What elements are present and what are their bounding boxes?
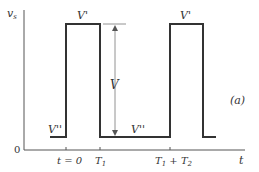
arrow-down-icon (112, 130, 118, 136)
origin-label: 0 (14, 144, 20, 155)
amplitude-label: V (110, 78, 120, 92)
high-level-label-2: V' (180, 9, 191, 22)
arrow-up-icon (112, 25, 118, 31)
pulse-waveform-diagram: vs 0 V' V' V'' V'' V t = 0 T1 T1 + T2 t … (0, 0, 259, 172)
pulse-waveform (50, 24, 216, 137)
x-axis-label: t (239, 154, 244, 167)
panel-label: (a) (230, 94, 245, 107)
low-level-label-1: V'' (48, 123, 62, 136)
low-level-label-2: V'' (131, 123, 145, 136)
tick-label-t1: T1 (95, 155, 106, 168)
y-axis-label: vs (7, 7, 17, 21)
tick-label-t0: t = 0 (57, 155, 83, 166)
tick-label-t1-plus-t2: T1 + T2 (155, 155, 193, 168)
high-level-label-1: V' (77, 9, 88, 22)
